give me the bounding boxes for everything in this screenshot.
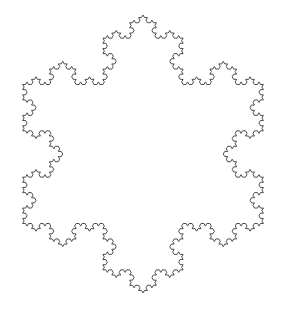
koch-snowflake-figure <box>0 0 283 313</box>
koch-snowflake-outline <box>23 15 264 293</box>
snowflake-canvas <box>0 0 283 313</box>
